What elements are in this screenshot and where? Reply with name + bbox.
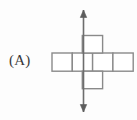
row-cell-2 — [72, 53, 92, 71]
arrowhead-down-icon — [80, 105, 86, 113]
figure-panel: (A) — [0, 0, 137, 120]
column-cell-bottom — [82, 71, 102, 89]
row-cell-1 — [52, 53, 72, 71]
cube-net-squares — [52, 36, 133, 89]
arrowhead-up-icon — [80, 10, 86, 18]
row-cell-3 — [93, 53, 113, 71]
cube-net-diagram — [0, 0, 137, 120]
column-cell-top — [82, 36, 102, 54]
row-cell-4 — [113, 53, 133, 71]
